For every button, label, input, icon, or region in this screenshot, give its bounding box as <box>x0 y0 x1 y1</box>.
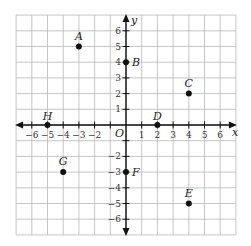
x-tick-label: −3 <box>72 130 86 140</box>
coordinate-plane: xyO−6−5−4−3−2123456654321−2−3−4−5−6 ABCD… <box>0 0 251 246</box>
point-marker-icon <box>186 201 192 207</box>
y-axis-label: y <box>130 14 138 27</box>
x-tick-label: 5 <box>202 130 208 140</box>
point-marker-icon <box>76 44 82 50</box>
x-tick-label: −4 <box>57 130 71 140</box>
x-tick-label: 3 <box>170 130 176 140</box>
x-tick-label: 1 <box>139 130 145 140</box>
point-label: D <box>152 110 162 123</box>
x-tick-label: −6 <box>25 130 39 140</box>
point-label: C <box>185 77 194 90</box>
x-axis-label: x <box>232 126 239 139</box>
x-tick-label: 6 <box>217 130 223 140</box>
point-marker-icon <box>186 91 192 97</box>
point-label: A <box>74 30 83 43</box>
y-tick-label: −6 <box>108 214 122 224</box>
x-tick-label: 4 <box>186 130 192 140</box>
plotted-points: ABCDEFGH <box>42 30 194 207</box>
y-tick-label: −4 <box>108 183 122 193</box>
y-tick-label: 4 <box>115 57 121 67</box>
point-label: H <box>42 110 53 123</box>
point-label: F <box>131 166 140 179</box>
y-tick-label: 3 <box>115 73 121 83</box>
point-label: B <box>131 56 140 69</box>
origin-label: O <box>115 127 124 140</box>
x-tick-label: −2 <box>88 130 101 140</box>
point-marker-icon <box>123 169 129 175</box>
y-tick-label: 1 <box>115 104 121 114</box>
point-label: E <box>184 187 193 200</box>
y-tick-label: −3 <box>108 167 122 177</box>
x-tick-label: 2 <box>155 130 161 140</box>
y-tick-label: 6 <box>115 26 121 36</box>
point-marker-icon <box>60 169 66 175</box>
tick-labels: xyO−6−5−4−3−2123456654321−2−3−4−5−6 <box>25 14 239 224</box>
point-marker-icon <box>123 59 129 65</box>
point-label: G <box>59 155 68 168</box>
y-tick-label: 2 <box>115 89 121 99</box>
y-tick-label: 5 <box>115 42 121 52</box>
y-tick-label: −2 <box>108 151 121 161</box>
y-tick-label: −5 <box>108 199 122 209</box>
x-tick-label: −5 <box>41 130 55 140</box>
